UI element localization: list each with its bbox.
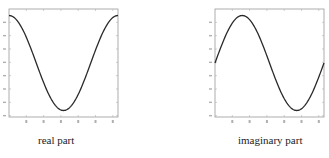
- imaginary-part-plot: [206, 0, 329, 125]
- imaginary-part-caption: imaginary part: [238, 134, 302, 146]
- real-part-plot: [0, 0, 125, 125]
- imaginary-part-chart-svg: [206, 0, 329, 125]
- data-curve: [9, 15, 118, 110]
- real-part-caption: real part: [38, 134, 74, 146]
- data-curve: [215, 15, 324, 110]
- plot-frame: [9, 9, 118, 117]
- real-part-chart-svg: [0, 0, 125, 125]
